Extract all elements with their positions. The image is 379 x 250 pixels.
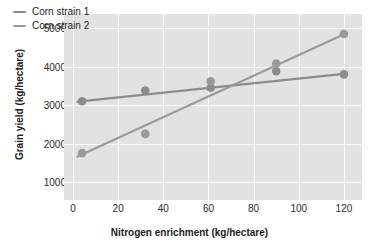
y-tick-label-2: 3000 (44, 100, 66, 111)
y-tick-label-0: 1000 (44, 176, 66, 187)
plot-area (64, 14, 362, 200)
data-point-s2-2 (206, 77, 215, 86)
data-layer (64, 14, 362, 200)
x-tick-label-5: 100 (290, 203, 307, 214)
x-tick-label-3: 60 (203, 203, 214, 214)
x-tick-label-1: 20 (113, 203, 124, 214)
data-point-s2-4 (340, 30, 349, 39)
x-tick-label-2: 40 (158, 203, 169, 214)
data-point-s2-3 (272, 59, 281, 68)
legend-line-swatch-icon-1 (13, 11, 26, 13)
legend-label-1: Corn strain 1 (32, 6, 89, 17)
x-tick-label-6: 120 (336, 203, 353, 214)
data-point-s2-0 (78, 149, 87, 158)
data-point-s1-1 (141, 86, 150, 95)
legend-entry-1: Corn strain 1 (13, 6, 89, 17)
x-tick-label-4: 80 (248, 203, 259, 214)
y-tick-label-1: 2000 (44, 138, 66, 149)
trend-line-series-2 (78, 33, 347, 156)
x-tick-label-0: 0 (70, 203, 76, 214)
data-point-s2-1 (141, 130, 150, 139)
scatter-chart-figure: 10002000300040005000 020406080100120 Cor… (0, 0, 379, 250)
x-axis-title: Nitrogen enrichment (kg/hectare) (0, 227, 379, 238)
y-axis-title: Grain yield (kg/hectare) (14, 25, 25, 185)
data-point-s1-0 (78, 97, 87, 106)
data-point-s1-3 (272, 67, 281, 76)
y-tick-label-3: 4000 (44, 61, 66, 72)
legend-label-2: Corn strain 2 (32, 20, 89, 31)
data-point-s1-4 (340, 70, 349, 79)
